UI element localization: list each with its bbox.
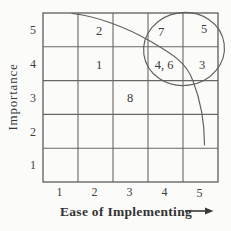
item-label-1: 1 bbox=[96, 58, 102, 72]
y-tick-1: 1 bbox=[30, 158, 36, 172]
x-tick-1: 1 bbox=[57, 185, 63, 199]
item-label-8: 8 bbox=[127, 91, 133, 105]
y-tick-3: 3 bbox=[30, 91, 36, 105]
x-tick-3: 3 bbox=[127, 185, 133, 199]
y-axis-title: Importance bbox=[5, 63, 20, 130]
y-axis-ticks: 5 4 3 2 1 bbox=[30, 23, 36, 172]
item-label-4-6: 4, 6 bbox=[155, 58, 174, 72]
y-tick-5: 5 bbox=[30, 23, 36, 37]
item-label-7: 7 bbox=[158, 25, 164, 39]
priority-boundary-curve bbox=[72, 14, 205, 146]
x-tick-4: 4 bbox=[162, 185, 168, 199]
x-axis-title: Ease of Implementing bbox=[60, 204, 192, 219]
y-tick-2: 2 bbox=[30, 125, 36, 139]
y-tick-4: 4 bbox=[30, 57, 36, 71]
item-label-2: 2 bbox=[96, 24, 102, 38]
matrix-chart-canvas: 2 7 5 1 4, 6 3 8 5 4 3 2 1 1 2 3 4 5 Imp… bbox=[0, 0, 231, 231]
x-tick-5: 5 bbox=[197, 186, 203, 200]
item-label-3: 3 bbox=[199, 58, 205, 72]
item-label-5: 5 bbox=[201, 22, 207, 36]
high-priority-cluster-ellipse bbox=[139, 7, 229, 91]
x-axis-ticks: 1 2 3 4 5 bbox=[57, 185, 203, 200]
prioritization-matrix-figure: 2 7 5 1 4, 6 3 8 5 4 3 2 1 1 2 3 4 5 Imp… bbox=[0, 0, 231, 231]
x-tick-2: 2 bbox=[92, 185, 98, 199]
